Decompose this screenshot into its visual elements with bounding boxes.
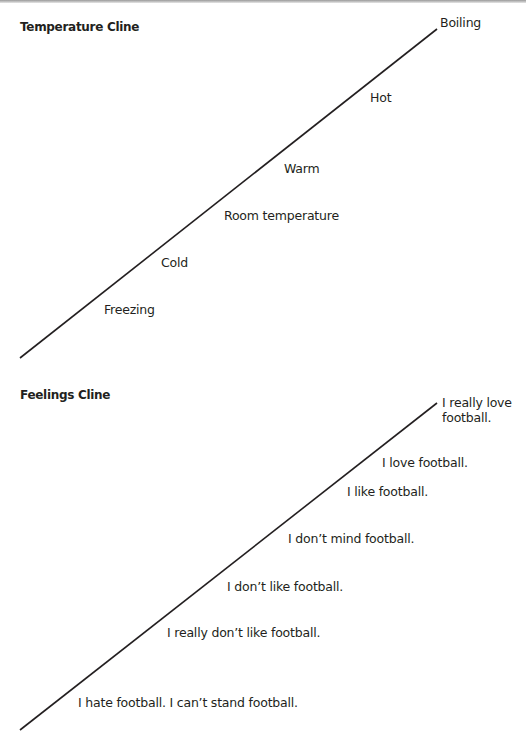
label-hot: Hot <box>370 90 391 105</box>
label-room-temperature: Room temperature <box>224 208 339 223</box>
label-boiling: Boiling <box>440 15 481 30</box>
temperature-cline-line <box>20 29 437 358</box>
label-warm: Warm <box>284 161 320 176</box>
feelings-cline-line <box>20 403 437 730</box>
label-dont-mind: I don’t mind football. <box>288 531 414 546</box>
label-dont-like: I don’t like football. <box>227 579 343 594</box>
label-cold: Cold <box>161 255 188 270</box>
label-really-love: I really love football. <box>442 395 522 425</box>
label-love: I love football. <box>382 455 468 470</box>
label-hate: I hate football. I can’t stand football. <box>78 695 298 710</box>
label-freezing: Freezing <box>104 302 155 317</box>
label-like: I like football. <box>347 484 428 499</box>
label-really-dont-like: I really don’t like football. <box>167 625 320 640</box>
